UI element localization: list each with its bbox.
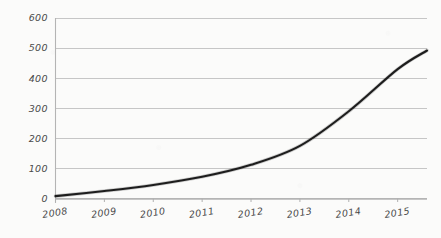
y-tick-label-600: 600 <box>29 12 48 23</box>
y-tick-label-200: 200 <box>29 133 48 144</box>
gridlines <box>56 19 428 200</box>
line-chart: 0100200300400500600 20082009201020112012… <box>0 0 441 238</box>
y-tick-label-100: 100 <box>29 163 48 174</box>
x-tick-label-2012: 2012 <box>237 205 264 220</box>
y-tick-labels: 0100200300400500600 <box>29 12 48 204</box>
x-tick-label-2008: 2008 <box>41 205 68 220</box>
x-tick-label-2009: 2009 <box>90 205 117 220</box>
x-tick-labels: 20082009201020112012201320142015 <box>41 205 410 220</box>
x-tick-label-2011: 2011 <box>188 205 215 220</box>
chart-plot-svg: 0100200300400500600 20082009201020112012… <box>0 0 441 238</box>
x-tick-label-2013: 2013 <box>286 205 313 220</box>
data-series <box>56 50 428 196</box>
y-tick-label-300: 300 <box>29 103 48 114</box>
y-tick-label-0: 0 <box>42 193 48 204</box>
y-tick-label-500: 500 <box>29 42 48 53</box>
series-line-growth <box>56 50 428 196</box>
series-line-halo-growth <box>56 50 428 196</box>
y-tick-label-400: 400 <box>29 73 48 84</box>
x-tick-label-2010: 2010 <box>139 205 166 220</box>
x-tick-label-2015: 2015 <box>384 205 411 220</box>
x-tick-label-2014: 2014 <box>335 205 362 220</box>
